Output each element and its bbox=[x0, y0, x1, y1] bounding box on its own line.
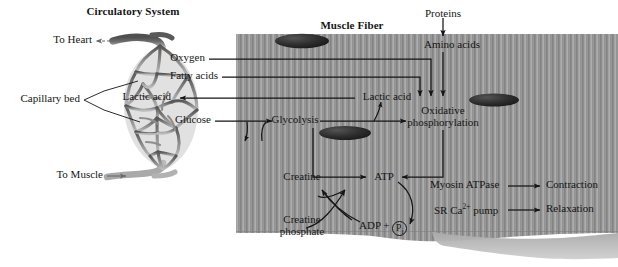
title-muscle-fiber: Muscle Fiber bbox=[320, 20, 383, 32]
sr-pump-suffix: pump bbox=[470, 204, 498, 216]
nucleus-icon bbox=[319, 126, 371, 140]
label-sr-ca-pump: SR Ca2+ pump bbox=[434, 203, 498, 216]
label-creatine-phosphate: Creatine phosphate bbox=[280, 213, 325, 238]
label-amino-acids: Amino acids bbox=[424, 39, 480, 51]
label-glycolysis: Glycolysis bbox=[271, 114, 318, 126]
label-lactic-acid-out: Lactic acid bbox=[122, 91, 171, 103]
label-myosin-atpase: Myosin ATPase bbox=[430, 179, 499, 191]
label-creatine: Creatine bbox=[283, 171, 320, 183]
inorganic-phosphate-icon: Pi bbox=[392, 221, 407, 236]
creatine-phosphate-line-2: phosphate bbox=[280, 225, 325, 237]
label-fatty-acids: Fatty acids bbox=[170, 70, 218, 82]
label-lactic-acid-in: Lactic acid bbox=[363, 91, 412, 103]
label-oxygen: Oxygen bbox=[170, 52, 205, 64]
label-to-heart: To Heart bbox=[53, 34, 92, 46]
label-glucose: Glucose bbox=[175, 114, 211, 126]
label-capillary-bed: Capillary bed bbox=[20, 93, 80, 105]
adp-text: ADP + bbox=[359, 219, 390, 231]
label-atp: ATP bbox=[374, 171, 394, 183]
label-adp-pi: ADP + Pi bbox=[359, 220, 407, 236]
sr-pump-prefix: SR Ca bbox=[434, 204, 462, 216]
nucleus-icon bbox=[275, 34, 329, 48]
label-proteins: Proteins bbox=[425, 8, 461, 20]
creatine-phosphate-line-1: Creatine bbox=[280, 213, 325, 225]
oxphos-line-2: phosphorylation bbox=[407, 116, 479, 128]
label-to-muscle: To Muscle bbox=[56, 169, 103, 181]
label-oxidative-phosphorylation: Oxidative phosphorylation bbox=[407, 104, 479, 129]
label-contraction: Contraction bbox=[546, 179, 598, 191]
figure-canvas: Circulatory System Muscle Fiber To Heart… bbox=[0, 0, 618, 267]
pi-subscript: i bbox=[401, 227, 403, 236]
title-circulatory-system: Circulatory System bbox=[87, 6, 180, 18]
label-relaxation: Relaxation bbox=[546, 203, 594, 215]
oxphos-line-1: Oxidative bbox=[407, 104, 479, 116]
